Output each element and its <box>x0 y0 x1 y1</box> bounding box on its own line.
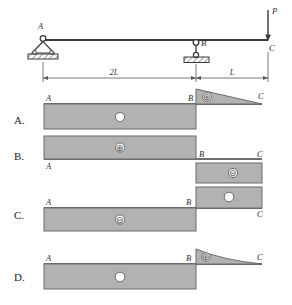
option-b-left-sign: ⊕ <box>116 143 124 153</box>
option-b-label-a: A <box>45 161 52 171</box>
option-c-letter: C. <box>14 209 24 221</box>
dim-label-l: L <box>229 67 235 77</box>
option-c-label-a: A <box>45 197 52 207</box>
option-b-right-sign: ⊖ <box>229 168 237 178</box>
option-b-label-c: C <box>257 149 263 159</box>
option-c-right-sign-marker <box>224 192 234 202</box>
beam-label-a: A <box>37 21 44 31</box>
option-d-label-c: C <box>257 252 263 262</box>
option-c-label-b: B <box>186 197 191 207</box>
option-b-label-b: B <box>199 149 204 159</box>
ground-hatching-a <box>28 54 58 59</box>
option-d-letter: D. <box>14 271 25 283</box>
option-a-left-sign-marker <box>115 112 124 121</box>
beam-label-c: C <box>269 43 275 53</box>
option-d-left-sign-marker <box>115 272 125 282</box>
pin-hinge-icon <box>40 36 46 42</box>
option-a-label-b: B <box>188 93 193 103</box>
load-label-p: P <box>271 6 277 16</box>
option-a-right-sign: ⊕ <box>203 92 211 102</box>
option-b-letter: B. <box>14 150 24 162</box>
option-d-label-a: A <box>45 253 52 263</box>
option-a-label-c: C <box>258 91 264 101</box>
beam-label-b: B <box>201 38 206 48</box>
option-a-letter: A. <box>14 114 25 126</box>
option-d-right-sign: ⊕ <box>202 252 210 262</box>
option-d-label-b: B <box>186 253 191 263</box>
ground-hatching-b <box>184 57 209 63</box>
option-c-left-sign: ⊖ <box>116 215 124 225</box>
pin-hinge-b-icon <box>193 40 199 46</box>
option-c-label-c: C <box>257 209 263 219</box>
dim-label-2l: 2L <box>110 67 119 77</box>
figure-canvas: A B P C 2L L A. <box>0 0 292 305</box>
option-a-label-a: A <box>45 93 52 103</box>
